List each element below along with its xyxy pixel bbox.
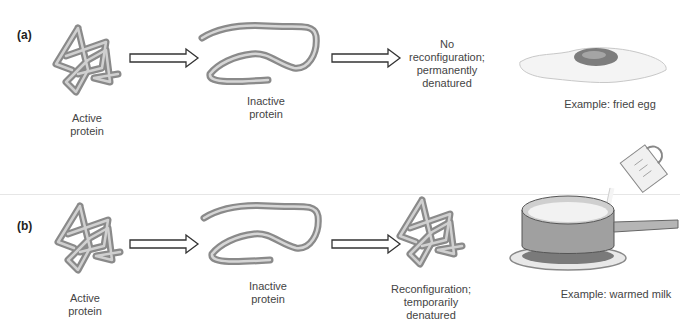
pan-of-milk-icon bbox=[506, 150, 680, 272]
caption-line: protein bbox=[243, 293, 293, 306]
refolded-protein-icon bbox=[392, 192, 474, 272]
caption-line: reconfiguration; bbox=[402, 51, 492, 64]
caption-temporarily-denatured: Reconfiguration; temporarily denatured bbox=[386, 283, 476, 322]
caption-example-warmed-milk: Example: warmed milk bbox=[556, 288, 676, 301]
caption-line: temporarily bbox=[386, 296, 476, 309]
panel-b-label: (b) bbox=[17, 219, 32, 233]
caption-line: denatured bbox=[402, 77, 492, 90]
caption-line: Active bbox=[62, 112, 112, 125]
panel-a-label: (a) bbox=[17, 28, 32, 42]
unfolded-protein-a-icon bbox=[198, 18, 324, 88]
arrow-right-icon bbox=[330, 48, 402, 68]
caption-line: protein bbox=[241, 108, 291, 121]
caption-active-protein-b: Active protein bbox=[60, 292, 110, 318]
unfolded-protein-b-icon bbox=[200, 198, 326, 268]
arrow-right-icon bbox=[128, 48, 200, 68]
folded-protein-a-icon bbox=[48, 20, 130, 98]
caption-line: protein bbox=[60, 305, 110, 318]
fried-egg-icon bbox=[516, 40, 672, 88]
caption-line: No bbox=[402, 38, 492, 51]
caption-inactive-protein-a: Inactive protein bbox=[241, 95, 291, 121]
caption-permanently-denatured: No reconfiguration; permanently denature… bbox=[402, 38, 492, 90]
caption-line: Inactive bbox=[241, 95, 291, 108]
folded-protein-b-icon bbox=[50, 198, 132, 278]
caption-example-fried-egg: Example: fried egg bbox=[555, 98, 665, 111]
caption-line: Reconfiguration; bbox=[386, 283, 476, 296]
caption-inactive-protein-b: Inactive protein bbox=[243, 280, 293, 306]
caption-line: protein bbox=[62, 125, 112, 138]
caption-line: denatured bbox=[386, 309, 476, 322]
caption-line: permanently bbox=[402, 64, 492, 77]
caption-line: Inactive bbox=[243, 280, 293, 293]
caption-active-protein-a: Active protein bbox=[62, 112, 112, 138]
caption-line: Active bbox=[60, 292, 110, 305]
arrow-right-icon bbox=[128, 234, 200, 254]
